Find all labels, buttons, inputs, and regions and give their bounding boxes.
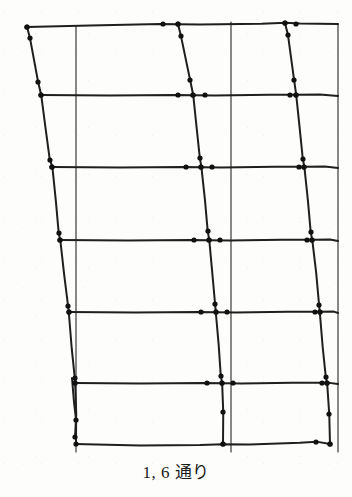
joint-marker bbox=[73, 441, 78, 446]
joint-marker bbox=[191, 237, 196, 242]
figure-root: 1, 6 通り bbox=[0, 0, 352, 497]
joint-marker bbox=[213, 309, 218, 314]
joint-marker bbox=[72, 380, 77, 385]
joint-marker bbox=[175, 92, 180, 97]
joint-marker bbox=[220, 409, 225, 414]
beam-level-3 bbox=[52, 167, 338, 168]
joint-marker bbox=[312, 309, 317, 314]
joint-marker bbox=[202, 92, 207, 97]
joint-marker bbox=[57, 237, 62, 242]
joint-marker bbox=[160, 21, 165, 26]
joint-marker bbox=[301, 164, 306, 169]
joint-marker bbox=[230, 380, 235, 385]
beam-level-1-roof bbox=[27, 23, 338, 27]
joint-marker bbox=[317, 309, 322, 314]
beam-level-4 bbox=[60, 240, 338, 241]
joint-marker bbox=[296, 164, 301, 169]
joint-marker bbox=[72, 434, 77, 439]
joint-marker bbox=[198, 164, 203, 169]
joint-marker bbox=[47, 157, 52, 162]
joint-marker bbox=[319, 380, 324, 385]
joint-marker bbox=[175, 21, 180, 26]
joint-marker bbox=[327, 441, 332, 446]
joint-marker bbox=[323, 374, 328, 379]
joint-marker bbox=[206, 237, 211, 242]
joint-marker bbox=[308, 229, 313, 234]
joint-marker bbox=[219, 380, 224, 385]
joint-marker bbox=[224, 309, 229, 314]
joint-marker bbox=[197, 155, 202, 160]
joint-marker bbox=[204, 380, 209, 385]
joint-marker bbox=[178, 33, 183, 38]
joint-marker bbox=[285, 32, 290, 37]
joint-marker bbox=[35, 79, 40, 84]
column-middle bbox=[178, 24, 223, 444]
joint-marker bbox=[73, 417, 78, 422]
joint-marker bbox=[291, 77, 296, 82]
joint-marker bbox=[190, 92, 195, 97]
joint-marker bbox=[326, 411, 331, 416]
joint-marker bbox=[27, 35, 32, 40]
figure-caption: 1, 6 通り bbox=[0, 458, 352, 483]
joint-marker bbox=[313, 439, 318, 444]
joint-marker bbox=[38, 92, 43, 97]
joint-marker bbox=[304, 237, 309, 242]
joint-marker bbox=[49, 164, 54, 169]
joint-marker bbox=[293, 21, 298, 26]
joint-marker bbox=[324, 380, 329, 385]
joint-marker bbox=[72, 375, 77, 380]
joint-marker bbox=[183, 164, 188, 169]
joint-marker bbox=[316, 302, 321, 307]
joint-marker bbox=[187, 77, 192, 82]
joint-marker bbox=[293, 92, 298, 97]
joint-marker bbox=[309, 237, 314, 242]
joint-marker bbox=[24, 24, 29, 29]
joint-marker bbox=[198, 309, 203, 314]
structural-frame-diagram bbox=[0, 0, 352, 460]
joint-marker bbox=[209, 164, 214, 169]
joint-marker bbox=[205, 228, 210, 233]
reference-grid-group bbox=[76, 22, 338, 452]
joint-marker bbox=[287, 92, 292, 97]
joint-marker bbox=[300, 156, 305, 161]
joint-marker bbox=[282, 20, 287, 25]
joint-marker bbox=[218, 373, 223, 378]
joint-marker bbox=[65, 303, 70, 308]
column-left bbox=[27, 27, 76, 437]
beam-level-7-base bbox=[75, 442, 330, 446]
joint-marker bbox=[56, 230, 61, 235]
joint-marker bbox=[212, 301, 217, 306]
joint-marker bbox=[220, 441, 225, 446]
columns-group bbox=[27, 23, 330, 444]
joint-marker bbox=[66, 309, 71, 314]
joint-marker bbox=[217, 237, 222, 242]
